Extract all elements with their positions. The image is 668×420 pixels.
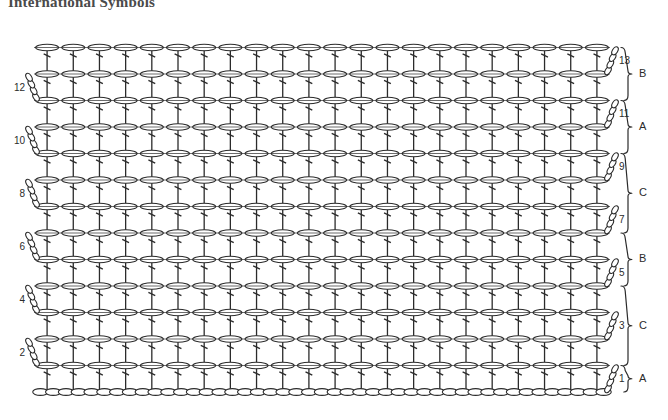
double-crochet-symbol: [253, 154, 260, 181]
double-crochet-symbol: [148, 233, 155, 260]
double-crochet-symbol: [594, 286, 601, 313]
double-crochet-symbol: [227, 127, 234, 154]
double-crochet-symbol: [306, 127, 313, 154]
double-crochet-symbol: [463, 366, 470, 393]
section-bracket: B: [621, 233, 646, 286]
double-crochet-symbol: [594, 154, 601, 181]
double-crochet-symbol: [175, 366, 182, 393]
double-crochet-symbol: [279, 286, 286, 313]
turning-chain-symbol: [603, 258, 619, 288]
turning-chain-link: [24, 337, 33, 347]
double-crochet-symbol: [253, 339, 260, 366]
row-number-left: 4: [19, 294, 25, 305]
double-crochet-symbol: [227, 74, 234, 101]
double-crochet-symbol: [332, 207, 339, 234]
double-crochet-symbol: [332, 101, 339, 128]
double-crochet-symbol: [594, 366, 601, 393]
double-crochet-symbol: [44, 366, 51, 393]
double-crochet-symbol: [279, 339, 286, 366]
double-crochet-symbol: [384, 313, 391, 340]
double-crochet-symbol: [567, 260, 574, 287]
double-crochet-symbol: [201, 154, 208, 181]
double-crochet-symbol: [436, 74, 443, 101]
double-crochet-symbol: [227, 48, 234, 75]
section-bracket: C: [621, 154, 647, 234]
double-crochet-symbol: [227, 260, 234, 287]
stitch-row: [44, 366, 601, 393]
double-crochet-symbol: [332, 260, 339, 287]
double-crochet-symbol: [541, 180, 548, 207]
double-crochet-symbol: [410, 154, 417, 181]
double-crochet-symbol: [148, 286, 155, 313]
row-numbers-group: 12108642131197531: [14, 55, 631, 384]
double-crochet-symbol: [122, 207, 129, 234]
double-crochet-symbol: [515, 313, 522, 340]
double-crochet-symbol: [515, 339, 522, 366]
double-crochet-symbol: [436, 366, 443, 393]
double-crochet-symbol: [70, 366, 77, 393]
double-crochet-symbol: [463, 233, 470, 260]
double-crochet-symbol: [253, 207, 260, 234]
double-crochet-symbol: [306, 48, 313, 75]
double-crochet-symbol: [515, 74, 522, 101]
section-label: B: [639, 67, 646, 79]
double-crochet-symbol: [227, 207, 234, 234]
double-crochet-symbol: [279, 101, 286, 128]
turning-chain-symbol: [24, 125, 40, 155]
double-crochet-symbol: [44, 260, 51, 287]
double-crochet-symbol: [70, 101, 77, 128]
double-crochet-symbol: [279, 180, 286, 207]
section-label: A: [639, 120, 647, 132]
foundation-chain-row: [33, 389, 612, 396]
row-number-left: 6: [19, 241, 25, 252]
double-crochet-symbol: [253, 127, 260, 154]
double-crochet-symbol: [306, 366, 313, 393]
double-crochet-symbol: [306, 74, 313, 101]
double-crochet-symbol: [515, 101, 522, 128]
double-crochet-symbol: [410, 101, 417, 128]
turning-chain-symbol: [24, 337, 40, 367]
section-label: B: [639, 252, 646, 264]
double-crochet-symbol: [148, 127, 155, 154]
double-crochet-symbol: [541, 286, 548, 313]
double-crochet-symbol: [227, 366, 234, 393]
double-crochet-symbol: [122, 286, 129, 313]
row-number-right: 11: [619, 108, 630, 119]
double-crochet-symbol: [148, 101, 155, 128]
double-crochet-symbol: [175, 48, 182, 75]
double-crochet-symbol: [175, 313, 182, 340]
double-crochet-symbol: [541, 313, 548, 340]
double-crochet-symbol: [96, 127, 103, 154]
double-crochet-symbol: [384, 101, 391, 128]
double-crochet-symbol: [70, 339, 77, 366]
double-crochet-symbol: [44, 233, 51, 260]
double-crochet-symbol: [70, 286, 77, 313]
double-crochet-symbol: [489, 286, 496, 313]
double-crochet-symbol: [175, 154, 182, 181]
double-crochet-symbol: [332, 74, 339, 101]
double-crochet-symbol: [122, 48, 129, 75]
double-crochet-symbol: [541, 260, 548, 287]
double-crochet-symbol: [358, 260, 365, 287]
double-crochet-symbol: [567, 154, 574, 181]
double-crochet-symbol: [384, 180, 391, 207]
chain-row: [34, 124, 610, 131]
double-crochet-symbol: [201, 127, 208, 154]
double-crochet-symbol: [96, 154, 103, 181]
double-crochet-symbol: [44, 207, 51, 234]
stitch-row: [44, 260, 601, 287]
double-crochet-symbol: [410, 180, 417, 207]
double-crochet-symbol: [594, 313, 601, 340]
double-crochet-symbol: [384, 48, 391, 75]
double-crochet-symbol: [96, 233, 103, 260]
double-crochet-symbol: [332, 154, 339, 181]
chain-row: [34, 97, 610, 104]
double-crochet-symbol: [253, 313, 260, 340]
double-crochet-symbol: [306, 180, 313, 207]
double-crochet-symbol: [384, 154, 391, 181]
double-crochet-symbol: [489, 48, 496, 75]
section-label: C: [639, 319, 647, 331]
double-crochet-symbol: [436, 286, 443, 313]
double-crochet-symbol: [358, 48, 365, 75]
double-crochet-symbol: [410, 313, 417, 340]
